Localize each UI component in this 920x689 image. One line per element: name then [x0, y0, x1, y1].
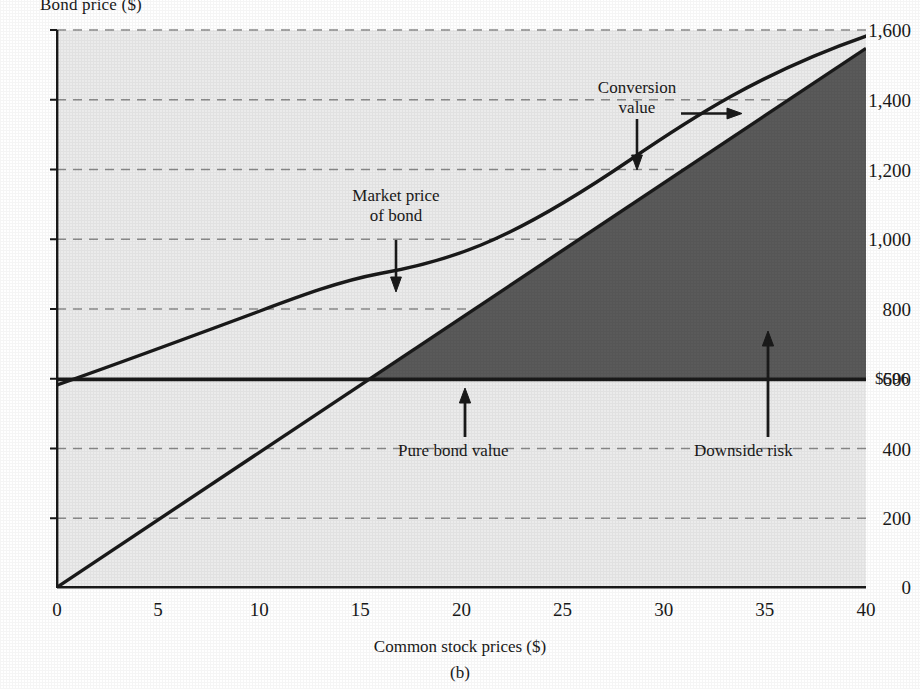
x-tick-label-40: 40	[857, 600, 876, 619]
x-tick-label-10: 10	[250, 600, 269, 619]
x-tick-label-5: 5	[153, 600, 163, 619]
annotation-conversion-value: Conversion value	[598, 78, 676, 118]
figure-caption: (b)	[0, 663, 920, 683]
bond-price-chart-figure: Bond price ($)	[0, 0, 920, 689]
annotation-market-price-of-bond: Market price of bond	[352, 186, 439, 226]
annotation-market-price-line1: Market price	[352, 186, 439, 206]
y-tick-label-400: 400	[864, 439, 920, 458]
y-tick-label-200: 200	[864, 509, 920, 528]
y-tick-label-1000: 1,000	[864, 230, 920, 249]
y-tick-label-1600: 1,600	[864, 21, 920, 40]
y-tick-label-1200: 1,200	[864, 160, 920, 179]
annotation-market-price-line2: of bond	[352, 206, 439, 226]
x-tick-label-20: 20	[452, 600, 471, 619]
y-tick-label-0: 0	[864, 578, 920, 597]
y-tick-label-800: 800	[864, 300, 920, 319]
annotation-conversion-value-line2: value	[598, 98, 676, 118]
annotation-conversion-value-line1: Conversion	[598, 78, 676, 98]
x-tick-label-0: 0	[52, 600, 62, 619]
y-tick-label-1400: 1,400	[864, 90, 920, 109]
x-axis-title: Common stock prices ($)	[0, 637, 920, 657]
x-tick-label-30: 30	[654, 600, 673, 619]
x-tick-label-35: 35	[755, 600, 774, 619]
plot-canvas	[0, 0, 920, 689]
x-tick-label-25: 25	[553, 600, 572, 619]
annotation-pure-bond-value: Pure bond value	[398, 441, 508, 461]
annotation-downside-risk: Downside risk	[694, 441, 793, 461]
y-tick-marks	[50, 30, 57, 518]
pure-bond-value-amount-label: $596	[875, 369, 909, 389]
x-tick-label-15: 15	[351, 600, 370, 619]
